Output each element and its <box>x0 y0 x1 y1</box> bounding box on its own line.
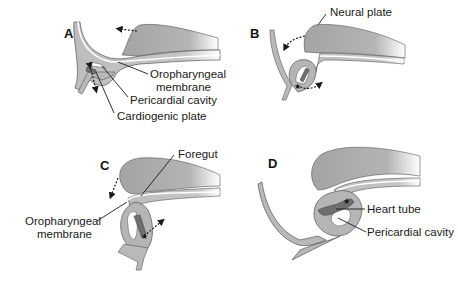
star-marker: ★ <box>294 82 301 91</box>
lower-arm-c <box>118 244 148 270</box>
neural-plate-shape <box>304 24 405 58</box>
embryo-heart-folding-diagram: A Oropharyngeal membrane Pericardial cav… <box>0 0 458 285</box>
label-oropharyngeal-c-1: Oropharyngeal <box>25 215 101 227</box>
fold-arrow-b1 <box>285 36 305 48</box>
panel-b: B ★ Neural plate <box>250 6 405 100</box>
label-oropharyngeal-a-2: membrane <box>156 81 211 93</box>
label-oropharyngeal-a-1: Oropharyngeal <box>150 68 226 80</box>
fold-arrow-c1 <box>111 178 118 196</box>
label-cardiogenic: Cardiogenic plate <box>117 110 207 122</box>
panel-letter-d: D <box>268 156 277 171</box>
leader-neural-plate <box>318 14 326 25</box>
panel-a: A Oropharyngeal membrane Pericardial cav… <box>64 22 226 122</box>
label-heart-tube: Heart tube <box>367 203 421 215</box>
panel-d: D ★ Heart tube Pericardial cavity <box>258 147 454 260</box>
star-marker: ★ <box>343 197 350 206</box>
panel-letter-c: C <box>100 158 110 173</box>
label-pericardial-a: Pericardial cavity <box>130 94 217 106</box>
label-neural-plate: Neural plate <box>330 6 392 18</box>
panel-letter-b: B <box>250 26 259 41</box>
panel-letter-a: A <box>64 26 74 41</box>
label-foregut: Foregut <box>178 148 218 160</box>
label-oropharyngeal-c-2: membrane <box>37 228 92 240</box>
left-arm <box>270 30 292 100</box>
label-pericardial-d: Pericardial cavity <box>367 226 454 238</box>
panel-c: C ★ Foregut Oropharyngeal membrane <box>25 148 220 270</box>
